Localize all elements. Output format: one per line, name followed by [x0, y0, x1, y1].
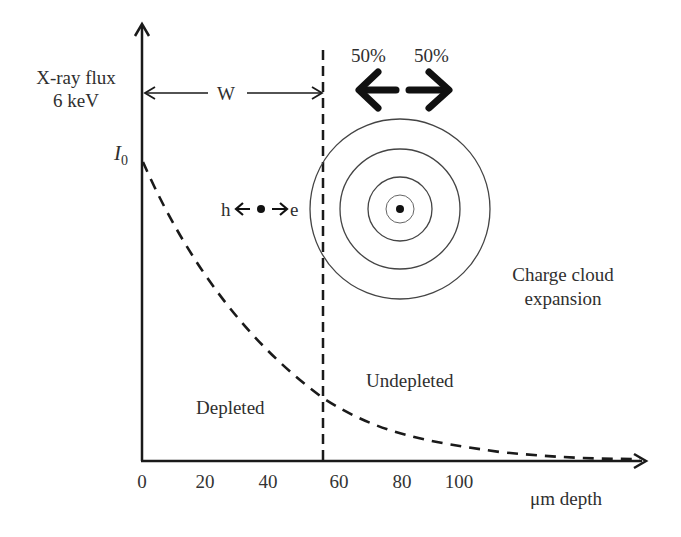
x-tick-20: 20: [196, 471, 215, 493]
i0-label: I0: [114, 143, 128, 168]
y-axis: [135, 24, 149, 461]
y-axis-label: X-ray flux 6 keV: [32, 66, 120, 112]
pair-dot-icon: [257, 205, 265, 213]
x-tick-100: 100: [445, 471, 474, 493]
hole-electron-pair: [236, 203, 287, 215]
y-axis-label-line1: X-ray flux: [32, 66, 120, 89]
electron-label: e: [290, 200, 298, 219]
x-tick-60: 60: [330, 471, 349, 493]
charge-cloud-label: Charge cloud expansion: [498, 263, 628, 311]
charge-cloud: [310, 119, 490, 299]
x-tick-0: 0: [137, 471, 147, 493]
i0-subscript: 0: [121, 153, 128, 168]
i0-letter: I: [114, 141, 121, 165]
region-undepleted-label: Undepleted: [366, 371, 454, 390]
x-tick-40: 40: [259, 471, 278, 493]
region-depleted-label: Depleted: [196, 398, 265, 417]
charge-cloud-line1: Charge cloud: [498, 263, 628, 287]
split-arrows: [359, 72, 449, 108]
hole-label: h: [221, 200, 231, 219]
center-dot-icon: [396, 205, 404, 213]
width-label: W: [217, 84, 235, 103]
y-axis-label-line2: 6 keV: [32, 89, 120, 112]
pct-right-label: 50%: [414, 46, 449, 65]
pct-left-label: 50%: [351, 46, 386, 65]
charge-cloud-line2: expansion: [498, 287, 628, 311]
x-tick-80: 80: [393, 471, 412, 493]
x-axis-label: μm depth: [530, 489, 602, 508]
